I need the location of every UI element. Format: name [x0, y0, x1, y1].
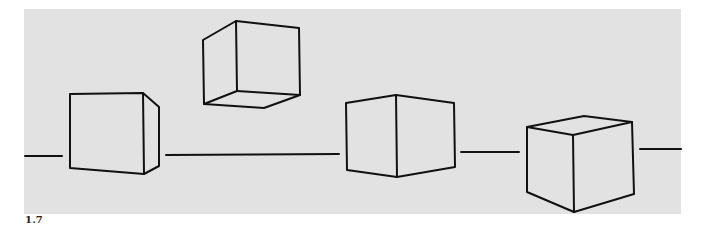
cube-left-frontal [70, 93, 159, 174]
cube-floating-above [203, 21, 300, 108]
cube-vertical-edge [396, 95, 397, 177]
cube-vertical-edge [573, 135, 574, 212]
cube-perspective-diagram [0, 0, 702, 228]
figure-number-label: 1.7 [25, 214, 43, 225]
cube-outline [346, 95, 455, 177]
cube-center-edge [346, 95, 455, 177]
horizon-segment-2 [166, 154, 339, 155]
cube-side-face [143, 93, 159, 174]
cube-front-face [70, 93, 144, 174]
cube-bottom-edge-left [204, 91, 237, 104]
cube-bottom-edge-right [237, 91, 300, 95]
cube-vertical-edge [236, 21, 237, 91]
horizon-line [25, 149, 681, 156]
cube-right-below [527, 116, 634, 212]
